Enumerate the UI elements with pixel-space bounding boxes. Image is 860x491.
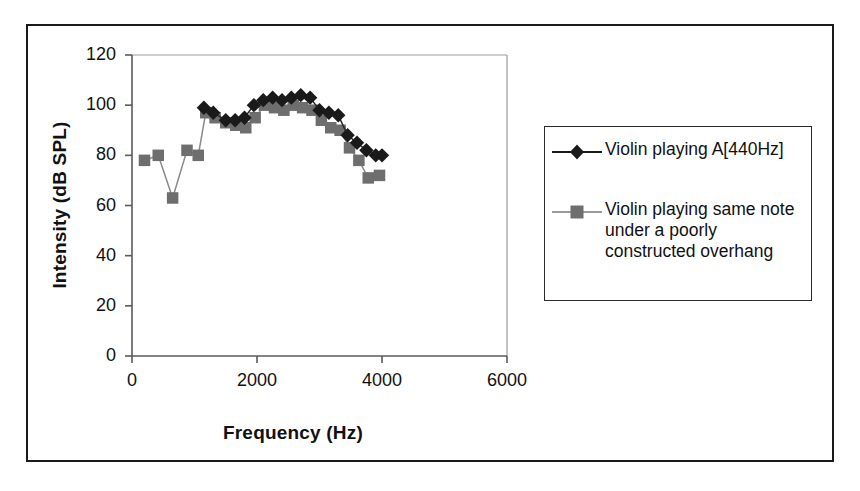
y-tick-label: 0 [62,345,116,366]
legend-label-0: Violin playing A[440Hz] [603,139,784,160]
legend-item-violin-overhang: Violin playing same note under a poorly … [545,199,811,262]
y-tick-label: 20 [62,295,116,316]
y-tick-label: 40 [62,245,116,266]
legend-label-1: Violin playing same note under a poorly … [603,199,805,262]
y-tick-label: 80 [62,144,116,165]
x-tick-label: 4000 [342,370,422,391]
x-axis-title: Frequency (Hz) [98,422,488,444]
y-tick-label: 100 [62,94,116,115]
x-tick-label: 6000 [467,370,547,391]
figure-border: Intensity (dB SPL) Frequency (Hz) 020406… [26,24,834,462]
figure-root: Intensity (dB SPL) Frequency (Hz) 020406… [0,0,860,491]
legend-item-violin-a440: Violin playing A[440Hz] [545,139,811,163]
y-tick-label: 60 [62,195,116,216]
y-tick-label: 120 [62,44,116,65]
x-tick-label: 2000 [217,370,297,391]
chart-plot-region: Intensity (dB SPL) Frequency (Hz) 020406… [28,26,548,464]
square-marker-icon [551,201,603,223]
chart-legend: Violin playing A[440Hz] Violin playing s… [544,126,812,301]
diamond-marker-icon [551,141,603,163]
x-tick-label: 0 [92,370,172,391]
